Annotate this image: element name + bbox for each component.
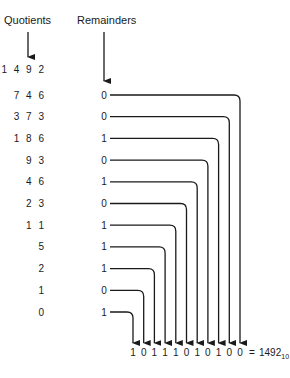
remainder-connectors: [110, 95, 240, 343]
quotient-value: 1: [38, 285, 46, 296]
result-bit: 0: [237, 347, 243, 358]
division-rows: 7 4 603 7 301 8 619 304 612 301 11512110…: [14, 90, 107, 318]
remainder-arrow-icon: [110, 95, 240, 343]
result-bit: 1: [173, 347, 179, 358]
quotient-value: 7 4 6: [14, 90, 46, 101]
remainder-value: 1: [101, 176, 107, 187]
result-bit: 1: [152, 347, 158, 358]
remainder-value: 0: [101, 111, 107, 122]
quotient-value: 0: [38, 307, 46, 318]
quotient-value: 1 1: [26, 220, 46, 231]
remainder-arrow-icon: [110, 160, 208, 343]
diagram-canvas: Quotients Remainders 1 4 9 2 7 4 603 7 3…: [0, 0, 290, 378]
remainders-header: Remainders: [77, 14, 137, 26]
remainder-arrow-icon: [110, 269, 154, 343]
result-bit: 0: [184, 347, 190, 358]
remainder-value: 1: [101, 241, 107, 252]
remainder-value: 1: [101, 307, 107, 318]
result-bit: 1: [194, 347, 200, 358]
start-value: 1 4 9 2: [1, 64, 46, 75]
binary-conversion-diagram: Quotients Remainders 1 4 9 2 7 4 603 7 3…: [0, 0, 290, 378]
remainder-arrow-icon: [110, 225, 176, 343]
result-bit: 1: [130, 347, 136, 358]
remainder-value: 1: [101, 133, 107, 144]
result-bit: 1: [216, 347, 222, 358]
quotient-value: 2: [38, 263, 46, 274]
remainder-value: 0: [101, 198, 107, 209]
result-bit: 0: [141, 347, 147, 358]
remainder-arrow-icon: [110, 312, 133, 343]
quotient-value: 3 7 3: [14, 111, 46, 122]
result-row: 10111010100=149210: [130, 347, 289, 360]
result-bit: 0: [227, 347, 233, 358]
quotients-header: Quotients: [4, 14, 52, 26]
remainder-value: 0: [101, 285, 107, 296]
decimal-result: 149210: [259, 347, 289, 360]
remainder-arrow-icon: [110, 247, 165, 343]
quotient-value: 2 3: [26, 198, 46, 209]
remainder-value: 0: [101, 90, 107, 101]
equals-sign: =: [249, 347, 255, 358]
result-bit: 1: [162, 347, 168, 358]
remainder-arrow-icon: [110, 290, 144, 343]
quotient-value: 5: [38, 241, 46, 252]
decimal-value: 1492: [259, 347, 282, 358]
remainder-arrow-icon: [110, 117, 229, 343]
remainder-value: 1: [101, 220, 107, 231]
remainder-arrow-icon: [110, 182, 197, 343]
result-bit: 0: [205, 347, 211, 358]
quotient-value: 1 8 6: [14, 133, 46, 144]
remainder-value: 0: [101, 155, 107, 166]
quotient-value: 4 6: [26, 176, 46, 187]
remainder-value: 1: [101, 263, 107, 274]
base-subscript: 10: [281, 353, 289, 360]
remainder-arrow-icon: [110, 204, 187, 344]
quotient-value: 9 3: [26, 155, 46, 166]
